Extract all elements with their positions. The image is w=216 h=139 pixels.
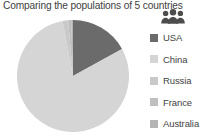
pie-chart-plot-area xyxy=(14,19,132,137)
legend-swatch-icon xyxy=(150,34,158,42)
legend-item-label: China xyxy=(163,54,187,65)
legend-item[interactable]: France xyxy=(150,92,216,114)
legend-swatch-icon xyxy=(150,77,158,85)
pie-chart-svg xyxy=(14,19,132,137)
legend-item-label: Australia xyxy=(163,118,199,129)
people-group-icon xyxy=(161,9,185,24)
legend-item-label: France xyxy=(163,97,192,108)
legend-swatch-icon xyxy=(150,55,158,63)
legend-item[interactable]: Australia xyxy=(150,113,216,135)
chart-legend: USAChinaRussiaFranceAustralia xyxy=(150,27,216,135)
legend-item[interactable]: USA xyxy=(150,27,216,49)
pie-chart-figure: Comparing the populations of 5 countries… xyxy=(0,0,216,139)
legend-item[interactable]: China xyxy=(150,49,216,71)
legend-swatch-icon xyxy=(150,98,158,106)
legend-item[interactable]: Russia xyxy=(150,70,216,92)
legend-item-label: USA xyxy=(163,32,182,43)
legend-item-label: Russia xyxy=(163,75,191,86)
pie-slice-group xyxy=(17,20,129,132)
legend-swatch-icon xyxy=(150,120,158,128)
